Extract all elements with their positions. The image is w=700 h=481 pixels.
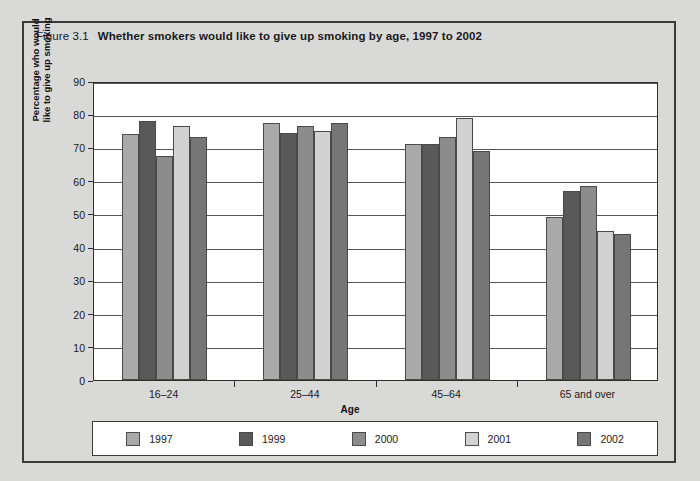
bar-group (263, 83, 348, 380)
x-tick-label: 16–24 (149, 388, 178, 400)
x-tick-label: 25–44 (290, 388, 319, 400)
y-tick-label: 10 (59, 342, 85, 354)
figure-page: Figure 3.1Whether smokers would like to … (0, 0, 700, 481)
y-tick-label: 70 (59, 142, 85, 154)
x-tick-mark (376, 381, 377, 387)
legend-item-1999[interactable]: 1999 (206, 432, 319, 446)
bar-2002-45–64[interactable] (473, 151, 490, 380)
plot-area (93, 82, 658, 381)
legend-item-2002[interactable]: 2002 (544, 432, 657, 446)
bar-1999-45–64[interactable] (422, 144, 439, 380)
x-tick-label: 65 and over (560, 388, 615, 400)
legend-label: 2002 (600, 433, 623, 445)
y-axis-label: Percentage who would like to give up smo… (30, 0, 52, 150)
bar-2002-25–44[interactable] (331, 123, 348, 380)
bar-2002-65-and-over[interactable] (614, 234, 631, 380)
x-tick-mark (234, 381, 235, 387)
bar-1997-65-and-over[interactable] (546, 217, 563, 380)
y-tick-label: 20 (59, 309, 85, 321)
legend-label: 1997 (149, 433, 172, 445)
bar-1999-65-and-over[interactable] (563, 191, 580, 380)
bar-1999-16–24[interactable] (139, 121, 156, 380)
y-tick-label: 50 (59, 209, 85, 221)
bar-1997-16–24[interactable] (122, 134, 139, 380)
figure-title: Figure 3.1Whether smokers would like to … (36, 30, 482, 42)
x-axis-label: Age (0, 404, 700, 415)
legend-label: 2000 (375, 433, 398, 445)
y-tick-label: 90 (59, 76, 85, 88)
legend-swatch-icon (126, 432, 140, 446)
bar-group (122, 83, 207, 380)
bar-1997-25–44[interactable] (263, 123, 280, 380)
legend-swatch-icon (577, 432, 591, 446)
bar-2000-16–24[interactable] (156, 156, 173, 380)
y-tick-label: 0 (59, 375, 85, 387)
legend-swatch-icon (239, 432, 253, 446)
bar-2001-25–44[interactable] (314, 131, 331, 380)
bar-group (405, 83, 490, 380)
legend-label: 2001 (488, 433, 511, 445)
legend-item-2000[interactable]: 2000 (319, 432, 432, 446)
bar-2000-45–64[interactable] (439, 137, 456, 380)
bar-1997-45–64[interactable] (405, 144, 422, 380)
bar-2001-45–64[interactable] (456, 118, 473, 380)
bars-container (94, 83, 657, 380)
bar-2000-25–44[interactable] (297, 126, 314, 380)
bar-2001-65-and-over[interactable] (597, 231, 614, 381)
x-tick-mark (517, 381, 518, 387)
bar-1999-25–44[interactable] (280, 133, 297, 381)
x-tick-label: 45–64 (432, 388, 461, 400)
y-tick-label: 30 (59, 275, 85, 287)
bar-2000-65-and-over[interactable] (580, 186, 597, 380)
legend-swatch-icon (352, 432, 366, 446)
legend-item-2001[interactable]: 2001 (431, 432, 544, 446)
legend-label: 1999 (262, 433, 285, 445)
y-tick-label: 60 (59, 176, 85, 188)
bar-2001-16–24[interactable] (173, 126, 190, 380)
legend-item-1997[interactable]: 1997 (93, 432, 206, 446)
legend-swatch-icon (465, 432, 479, 446)
y-tick-label: 40 (59, 242, 85, 254)
y-axis-label-line-1: Percentage who would (30, 0, 41, 150)
figure-caption: Whether smokers would like to give up sm… (98, 30, 482, 42)
bar-2002-16–24[interactable] (190, 137, 207, 380)
bar-group (546, 83, 631, 380)
y-axis-label-line-2: like to give up smoking (41, 0, 52, 150)
y-tick-label: 80 (59, 109, 85, 121)
chart-legend: 19971999200020012002 (92, 421, 658, 456)
